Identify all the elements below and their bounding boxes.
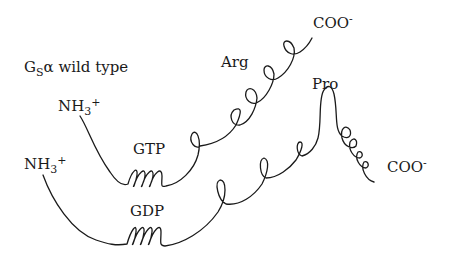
nh-superscript: + [91, 96, 100, 109]
nh-text: NH [58, 97, 84, 115]
arg-label: Arg [221, 55, 249, 70]
wild-type-c-terminus-label: COO- [313, 14, 353, 31]
nh-superscript: + [57, 154, 66, 167]
diagram-canvas: GSα wild type NH3+ GTP Arg COO- NH3+ GDP… [0, 0, 449, 264]
wild-type-n-terminus-label: NH3+ [58, 97, 100, 117]
nh-text: NH [24, 155, 50, 173]
coo-text: COO [387, 158, 423, 176]
title-subscript: S [36, 66, 44, 79]
coo-superscript: - [349, 13, 353, 26]
title-greek: α [44, 58, 54, 76]
protein-chains-drawing [0, 0, 449, 264]
mutant-n-terminus-label: NH3+ [24, 155, 66, 175]
figure-title: GSα wild type [24, 60, 128, 78]
coo-superscript: - [423, 157, 427, 170]
title-prefix: G [24, 58, 36, 76]
gdp-label: GDP [130, 204, 164, 219]
gtp-label: GTP [133, 142, 165, 157]
title-suffix: wild type [54, 58, 129, 76]
pro-label: Pro [312, 77, 338, 92]
mutant-c-terminus-label: COO- [387, 158, 427, 175]
coo-text: COO [313, 14, 349, 32]
